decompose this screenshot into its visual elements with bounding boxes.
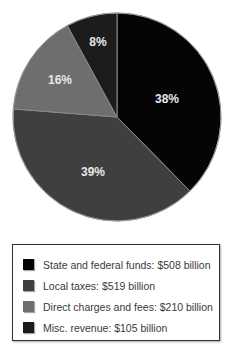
legend-item-misc-revenue: Misc. revenue: $105 billion: [13, 317, 219, 338]
legend-swatch-icon: [23, 301, 34, 312]
legend-item-state-federal: State and federal funds: $508 billion: [13, 254, 219, 275]
legend-label: Misc. revenue: $105 billion: [43, 322, 167, 334]
legend-label: State and federal funds: $508 billion: [43, 259, 211, 271]
legend-label: Local taxes: $519 billion: [43, 280, 155, 292]
legend-swatch-icon: [23, 322, 34, 333]
slice-label-local-taxes: 39%: [81, 165, 105, 179]
legend-item-direct-charges: Direct charges and fees: $210 billion: [13, 296, 219, 317]
legend-label: Direct charges and fees: $210 billion: [43, 301, 213, 313]
slice-label-direct-charges: 16%: [48, 73, 72, 87]
pie-chart: [0, 0, 232, 240]
legend: State and federal funds: $508 billion Lo…: [12, 244, 220, 341]
legend-item-local-taxes: Local taxes: $519 billion: [13, 275, 219, 296]
legend-swatch-icon: [23, 259, 34, 270]
slice-label-state-federal: 38%: [155, 92, 179, 106]
slice-label-misc-revenue: 8%: [89, 35, 106, 49]
legend-swatch-icon: [23, 280, 34, 291]
